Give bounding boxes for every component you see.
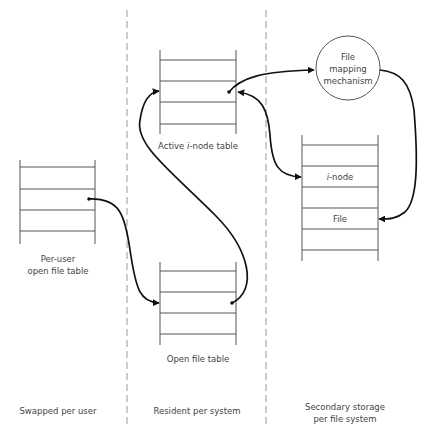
edge-active-inode-to-file-mapping [229, 70, 314, 92]
region-label-secondary-line1: Secondary storage [305, 402, 385, 412]
per-user-table-label-line1: Per-user [41, 254, 76, 264]
region-label-secondary-line2: per file system [313, 414, 376, 424]
secondary-storage-table [302, 135, 378, 261]
open-file-table-label: Open file table [167, 354, 230, 364]
secondary-row-file-label: File [333, 214, 347, 224]
per-user-open-file-table [20, 160, 95, 244]
label-prefix: Active [158, 141, 187, 151]
open-file-table [160, 262, 236, 345]
edge-inode-bidirectional [238, 92, 301, 177]
per-user-table-label-line2: open file table [27, 266, 88, 276]
label-suffix: -node table [189, 141, 238, 151]
active-inode-table [160, 50, 236, 134]
active-inode-table-label: Active i-node table [158, 141, 238, 151]
file-mapping-label-line2: mapping [329, 64, 366, 74]
edge-file-mapping-to-file [379, 70, 416, 219]
secondary-row-inode-label: i-node [327, 172, 354, 182]
region-label-swapped: Swapped per user [19, 406, 97, 416]
file-system-diagram: Per-user open file table Active i-node t… [0, 0, 427, 438]
file-mapping-label-line1: File [341, 52, 355, 62]
inode-text: -node [329, 172, 353, 182]
file-mapping-label-line3: mechanism [323, 76, 372, 86]
region-label-resident: Resident per system [153, 406, 240, 416]
edge-per-user-to-open-file [89, 199, 159, 303]
